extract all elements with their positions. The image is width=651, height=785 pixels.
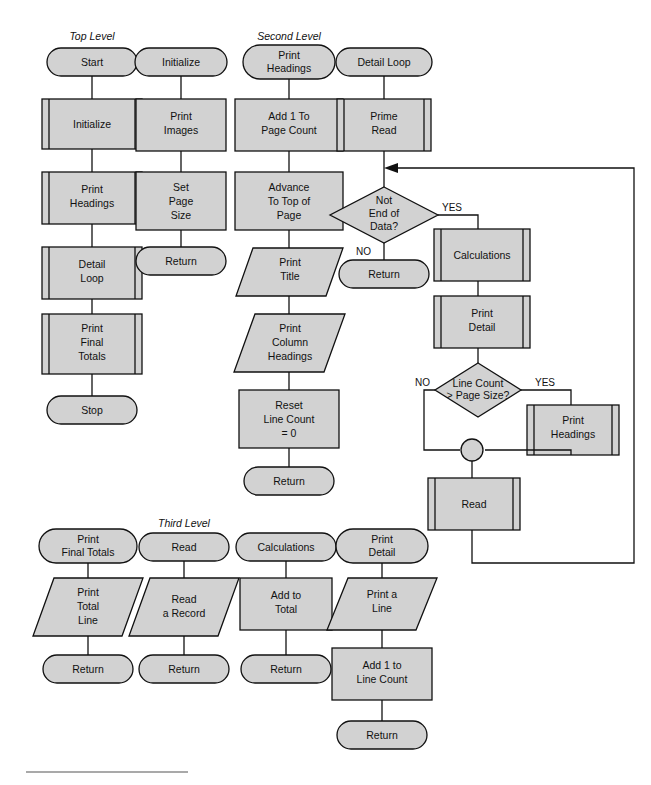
node-label-line2: To Top of [268, 195, 311, 207]
node-pd-add1-line-count[interactable]: Add 1 to Line Count [332, 648, 432, 700]
node-label-line1: Advance [269, 181, 310, 193]
node-label-line3: Line [78, 614, 98, 626]
branch-label-linecount-no: NO [415, 377, 430, 388]
node-label-line2: Headings [267, 62, 311, 74]
node-label-line1: Not [376, 194, 392, 206]
node-pft-header[interactable]: Print Final Totals [39, 529, 137, 563]
node-label-line1: Print [81, 322, 103, 334]
node-label-line2: Detail [369, 546, 396, 558]
node-pd-header[interactable]: Print Detail [336, 529, 428, 563]
connector-yes-branch [438, 215, 478, 229]
node-ph-return[interactable]: Return [244, 467, 334, 495]
node-tl-print-final-totals[interactable]: Print Final Totals [42, 314, 142, 374]
node-label-line1: Print [471, 307, 493, 319]
node-cl-header[interactable]: Calculations [236, 533, 336, 561]
node-label: Initialize [162, 56, 200, 68]
branch-label-no: NO [356, 246, 371, 257]
node-label-line2: Final [81, 336, 104, 348]
module-read: Read Read a Record Return [129, 533, 239, 683]
node-label-line2: Read [371, 124, 396, 136]
node-dl-return[interactable]: Return [339, 260, 429, 288]
node-label-line2: Title [280, 270, 300, 282]
node-ph-reset-line-count[interactable]: Reset Line Count = 0 [239, 390, 339, 448]
node-label-line1: Add 1 To [268, 110, 309, 122]
node-pd-return[interactable]: Return [337, 721, 427, 749]
node-label-line2: Final Totals [62, 546, 115, 558]
node-rd-return[interactable]: Return [139, 655, 229, 683]
node-label: Return [368, 268, 400, 280]
node-label-line2: > Page Size? [447, 389, 510, 401]
node-dl-print-headings[interactable]: Print Headings [527, 405, 619, 455]
node-label: Return [72, 663, 104, 675]
node-label-line1: Print [279, 322, 301, 334]
loop-return-arrowhead [384, 163, 398, 173]
node-dl-print-detail[interactable]: Print Detail [434, 296, 530, 348]
node-label: Return [366, 729, 398, 741]
node-in-return[interactable]: Return [136, 247, 226, 275]
node-label-line2: Headings [551, 428, 595, 440]
node-dl-not-end-of-data[interactable]: Not End of Data? [330, 187, 438, 243]
node-tl-detail-loop[interactable]: Detail Loop [42, 247, 142, 299]
node-pd-print-a-line[interactable]: Print a Line [327, 578, 437, 630]
section-title-top-level: Top Level [69, 30, 115, 42]
node-label-line1: Print [279, 256, 301, 268]
node-label-line2: Page [169, 195, 194, 207]
node-label-line1: Print [81, 183, 103, 195]
node-label-line3: Size [171, 209, 192, 221]
node-label: Initialize [73, 118, 111, 130]
node-cl-return[interactable]: Return [241, 655, 331, 683]
node-label-line2: a Record [163, 607, 206, 619]
node-dl-read[interactable]: Read [428, 478, 520, 530]
node-label-line1: Print [77, 586, 99, 598]
node-label-line3: Page [277, 209, 302, 221]
node-ph-advance-top-page[interactable]: Advance To Top of Page [235, 172, 343, 230]
node-pft-print-total-line[interactable]: Print Total Line [33, 578, 143, 636]
node-in-header[interactable]: Initialize [135, 48, 227, 76]
node-dl-calculations[interactable]: Calculations [434, 229, 530, 281]
node-rd-read-a-record[interactable]: Read a Record [129, 578, 239, 636]
node-ph-print-title[interactable]: Print Title [236, 248, 343, 296]
node-label-line2: Headings [70, 197, 114, 209]
node-label-line1: Print [77, 533, 99, 545]
node-tl-start[interactable]: Start [47, 48, 137, 76]
node-label-line1: Detail [79, 258, 106, 270]
module-print-headings: Print Headings Add 1 To Page Count Advan… [234, 45, 345, 495]
node-label-line2: Loop [80, 272, 104, 284]
module-print-detail: Print Detail Print a Line Add 1 to Line … [327, 529, 437, 749]
node-ph-add1-page-count[interactable]: Add 1 To Page Count [235, 99, 343, 151]
section-title-second-level: Second Level [257, 30, 321, 42]
node-dl-merge-connector[interactable] [461, 439, 483, 461]
node-label-line2: Total [77, 600, 99, 612]
module-detail-loop: Detail Loop Prime Read Not End of Data? … [330, 48, 634, 563]
flowchart-canvas: Top Level Second Level Third Level Start… [0, 0, 651, 785]
node-label-line1: Print [562, 414, 584, 426]
node-ph-print-column-headings[interactable]: Print Column Headings [234, 314, 345, 372]
node-dl-header[interactable]: Detail Loop [336, 48, 432, 76]
node-tl-stop[interactable]: Stop [47, 396, 137, 424]
node-label: Calculations [257, 541, 314, 553]
node-dl-line-count-decision[interactable]: Line Count > Page Size? [435, 363, 521, 417]
node-dl-prime-read[interactable]: Prime Read [337, 99, 431, 151]
node-tl-initialize[interactable]: Initialize [42, 99, 142, 149]
node-label-line1: Print [278, 49, 300, 61]
node-label-line2: Line Count [264, 413, 315, 425]
node-in-set-page-size[interactable]: Set Page Size [136, 172, 226, 230]
node-in-print-images[interactable]: Print Images [136, 99, 226, 151]
node-label-line1: Print [371, 533, 393, 545]
node-label-line1: Print [170, 110, 192, 122]
node-label-line1: Line Count [453, 377, 504, 389]
node-tl-print-headings[interactable]: Print Headings [42, 172, 142, 224]
node-label-line1: Read [171, 593, 196, 605]
module-top-level: Start Initialize Print Headings Detail L… [42, 48, 142, 424]
node-label-line2: Total [275, 603, 297, 615]
node-label-line1: Reset [275, 399, 303, 411]
node-label: Return [273, 475, 305, 487]
node-rd-header[interactable]: Read [139, 533, 229, 561]
node-label-line2: Column [272, 336, 308, 348]
node-label-line2: Line Count [357, 673, 408, 685]
node-cl-add-to-total[interactable]: Add to Total [240, 578, 332, 630]
node-label-line2: Line [372, 602, 392, 614]
node-ph-header[interactable]: Print Headings [243, 45, 335, 79]
node-pft-return[interactable]: Return [43, 655, 133, 683]
node-label-line1: Set [173, 181, 189, 193]
